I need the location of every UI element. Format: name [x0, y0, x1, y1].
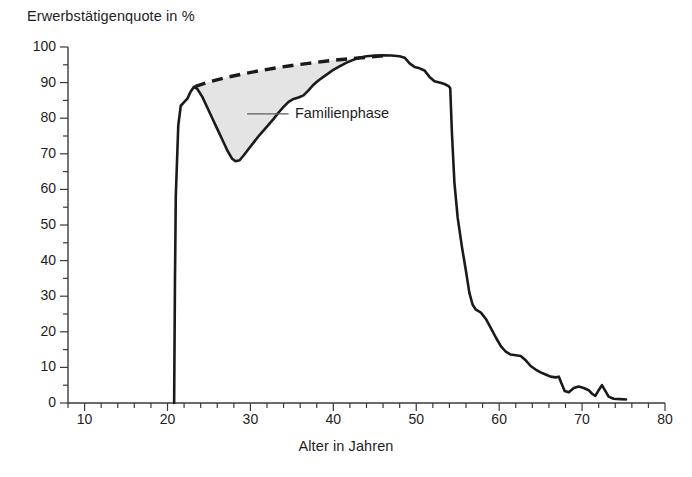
y-axis-title: Erwerbstätigenquote in %: [27, 8, 195, 24]
x-tick-label: 50: [396, 411, 436, 427]
x-tick-label: 40: [313, 411, 353, 427]
y-tick-label: 30: [22, 287, 56, 303]
x-tick-label: 70: [562, 411, 602, 427]
chart-axes: [60, 47, 665, 411]
x-tick-label: 30: [230, 411, 270, 427]
y-tick-label: 100: [22, 38, 56, 54]
chart-plot-area: [0, 0, 692, 477]
chart-container: Erwerbstätigenquote in % Alter in Jahren…: [0, 0, 692, 477]
y-tick-label: 20: [22, 323, 56, 339]
y-tick-label: 10: [22, 358, 56, 374]
y-tick-label: 40: [22, 252, 56, 268]
x-axis-title: Alter in Jahren: [0, 438, 692, 454]
y-tick-label: 80: [22, 109, 56, 125]
y-tick-label: 90: [22, 74, 56, 90]
y-tick-label: 60: [22, 180, 56, 196]
x-tick-label: 60: [479, 411, 519, 427]
y-tick-label: 50: [22, 216, 56, 232]
annotation-familienphase: Familienphase: [295, 105, 389, 121]
x-tick-label: 20: [148, 411, 188, 427]
x-tick-label: 80: [645, 411, 685, 427]
x-tick-label: 10: [65, 411, 105, 427]
y-tick-label: 0: [22, 394, 56, 410]
y-tick-label: 70: [22, 145, 56, 161]
